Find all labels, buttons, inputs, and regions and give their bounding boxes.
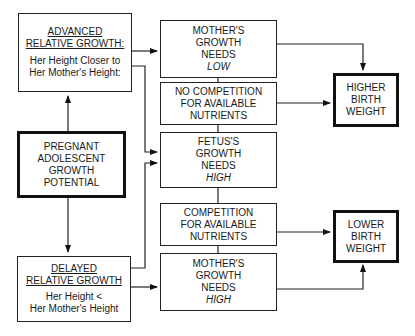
delayed-title-2: RELATIVE GROWTH	[26, 275, 122, 287]
fetus-growth-needs-high-box: FETUS'S GROWTH NEEDS HIGH	[160, 132, 277, 188]
higher-line-3: WEIGHT	[346, 106, 386, 118]
higher-line-1: HIGHER	[347, 82, 386, 94]
mothers-growth-needs-low-box: MOTHER'S GROWTH NEEDS LOW	[160, 20, 277, 78]
mother-high-line-2: GROWTH	[196, 270, 242, 282]
higher-birth-weight-box: HIGHER BIRTH WEIGHT	[333, 73, 399, 127]
mother-high-level: HIGH	[206, 294, 231, 306]
mother-low-level: LOW	[207, 61, 230, 73]
competition-line-3: NUTRIENTS	[190, 231, 247, 243]
higher-line-2: BIRTH	[351, 94, 381, 106]
no-competition-line-3: NUTRIENTS	[190, 110, 247, 122]
mothers-growth-needs-high-box: MOTHER'S GROWTH NEEDS HIGH	[160, 253, 277, 311]
lower-line-3: WEIGHT	[346, 243, 386, 255]
lower-birth-weight-box: LOWER BIRTH WEIGHT	[333, 210, 399, 263]
no-competition-line-1: NO COMPETITION	[175, 86, 262, 98]
lower-line-1: LOWER	[348, 219, 385, 231]
advanced-line-1: Her Height Closer to	[30, 55, 121, 67]
lower-line-2: BIRTH	[351, 231, 381, 243]
delayed-relative-growth-box: DELAYED RELATIVE GROWTH Her Height < Her…	[17, 256, 131, 322]
competition-line-1: COMPETITION	[184, 207, 253, 219]
advanced-title-2: RELATIVE GROWTH:	[26, 38, 125, 50]
no-competition-line-2: FOR AVAILABLE	[181, 98, 257, 110]
advanced-title-1: ADVANCED	[48, 26, 103, 38]
fetus-line-2: GROWTH	[196, 148, 242, 160]
mother-low-line-1: MOTHER'S	[193, 25, 245, 37]
mother-high-line-3: NEEDS	[201, 282, 235, 294]
potential-line-1: PREGNANT	[44, 141, 100, 153]
potential-line-2: ADOLESCENT	[38, 153, 106, 165]
delayed-title-1: DELAYED	[51, 263, 97, 275]
potential-line-4: POTENTIAL	[44, 177, 100, 189]
advanced-relative-growth-box: ADVANCED RELATIVE GROWTH: Her Height Clo…	[18, 13, 132, 92]
competition-box: COMPETITION FOR AVAILABLE NUTRIENTS	[160, 203, 277, 246]
mother-low-line-2: GROWTH	[196, 37, 242, 49]
mother-high-line-1: MOTHER'S	[193, 258, 245, 270]
delayed-line-2: Her Mother's Height	[30, 303, 119, 315]
pregnant-adolescent-growth-potential-box: PREGNANT ADOLESCENT GROWTH POTENTIAL	[17, 131, 126, 198]
advanced-line-2: Her Mother's Height:	[29, 67, 120, 79]
fetus-line-3: NEEDS	[201, 160, 235, 172]
potential-line-3: GROWTH	[49, 165, 95, 177]
delayed-line-1: Her Height <	[46, 291, 102, 303]
no-competition-box: NO COMPETITION FOR AVAILABLE NUTRIENTS	[160, 82, 277, 125]
fetus-level: HIGH	[206, 172, 231, 184]
fetus-line-1: FETUS'S	[198, 136, 239, 148]
competition-line-2: FOR AVAILABLE	[181, 219, 257, 231]
mother-low-line-3: NEEDS	[201, 49, 235, 61]
